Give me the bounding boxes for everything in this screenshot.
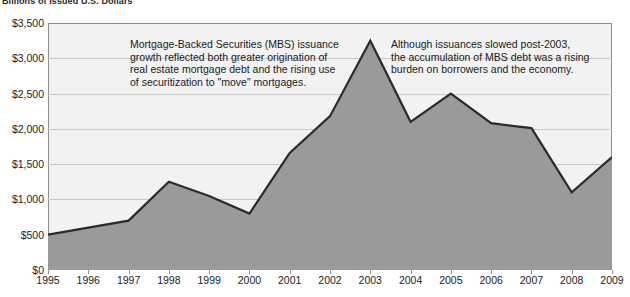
- x-axis-tick-label: 2005: [439, 274, 462, 286]
- x-axis-tick-label: 1996: [77, 274, 100, 286]
- y-axis-tick-label: $2,000: [0, 123, 44, 135]
- x-axis-tick-label: 2000: [238, 274, 261, 286]
- x-axis-tick-label: 2006: [479, 274, 502, 286]
- x-axis-tick: [249, 270, 250, 274]
- y-axis-tick-label: $1,500: [0, 158, 44, 170]
- x-axis-tick: [169, 270, 170, 274]
- x-axis-tick-label: 2007: [520, 274, 543, 286]
- x-axis-tick: [531, 270, 532, 274]
- x-axis-tick: [88, 270, 89, 274]
- mbs-issuance-chart: Billions of Issued U.S. Dollars $0$500$1…: [0, 0, 630, 297]
- y-axis-tick-label: $3,000: [0, 52, 44, 64]
- annotation-left: Mortgage-Backed Securities (MBS) issuanc…: [130, 38, 375, 88]
- x-axis-tick: [451, 270, 452, 274]
- x-axis-tick: [572, 270, 573, 274]
- x-axis-tick: [129, 270, 130, 274]
- x-axis-tick: [290, 270, 291, 274]
- y-axis-tick-label: $500: [0, 229, 44, 241]
- x-axis-tick: [330, 270, 331, 274]
- y-axis-tick-label: $2,500: [0, 88, 44, 100]
- x-axis-tick: [491, 270, 492, 274]
- y-axis-tick-label: $3,500: [0, 17, 44, 29]
- x-axis-tick-label: 2002: [318, 274, 341, 286]
- x-axis-tick: [48, 270, 49, 274]
- x-axis-tick: [411, 270, 412, 274]
- x-axis-tick-label: 1995: [36, 274, 59, 286]
- x-axis-tick-label: 1998: [157, 274, 180, 286]
- x-axis-tick-label: 2001: [278, 274, 301, 286]
- x-axis-tick-label: 2004: [399, 274, 422, 286]
- x-axis-tick-label: 2008: [560, 274, 583, 286]
- x-axis-tick-label: 1999: [197, 274, 220, 286]
- x-axis-tick: [209, 270, 210, 274]
- annotation-right: Although issuances slowed post-2003, the…: [391, 38, 616, 76]
- x-axis-tick: [370, 270, 371, 274]
- x-axis-tick: [612, 270, 613, 274]
- x-axis-tick-label: 2009: [600, 274, 623, 286]
- y-axis-tick-label: $1,000: [0, 193, 44, 205]
- x-axis-tick-label: 1997: [117, 274, 140, 286]
- x-axis-tick-label: 2003: [359, 274, 382, 286]
